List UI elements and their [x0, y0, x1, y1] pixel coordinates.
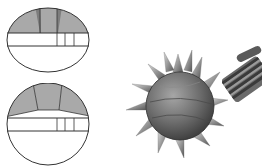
sphere-body [146, 72, 214, 140]
shaded-segment-left [0, 83, 38, 118]
cylinder-ribs [222, 55, 262, 103]
circle-section-diagram [0, 83, 100, 166]
ribbed-cylinder-icon [222, 40, 262, 120]
divided-strip [0, 33, 100, 46]
ellipse-section-diagram [0, 0, 100, 83]
shaded-dome [0, 0, 100, 33]
shaded-segment-right [59, 83, 100, 118]
